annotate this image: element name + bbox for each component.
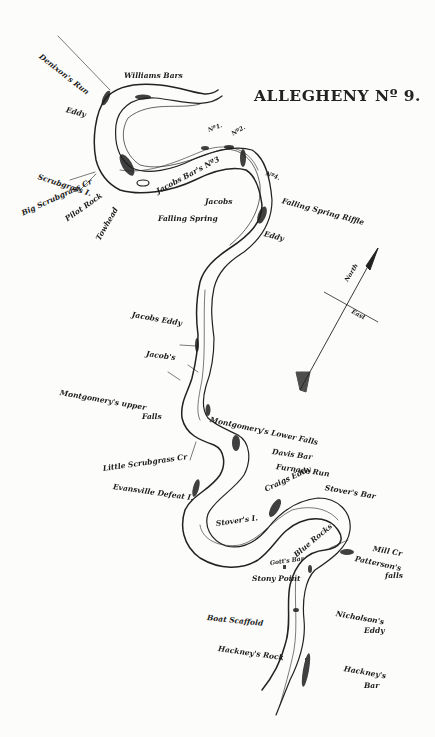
compass-arrow-icon [296, 248, 378, 392]
label-pattersons-falls-2: falls [385, 572, 403, 580]
label-hackneys-bar-2: Bar [364, 682, 379, 690]
label-nicholsons-eddy-2: Eddy [364, 627, 385, 635]
label-jacobs-top: Jacobs [205, 198, 232, 206]
label-montgomery-upper-falls: Falls [142, 413, 162, 421]
label-williams-bars: Williams Bars [124, 72, 183, 80]
label-stony-point: Stony Point [252, 575, 301, 583]
label-falling-spring: Falling Spring [158, 215, 218, 223]
map-title: ALLEGHENY Nº 9. [254, 86, 421, 105]
